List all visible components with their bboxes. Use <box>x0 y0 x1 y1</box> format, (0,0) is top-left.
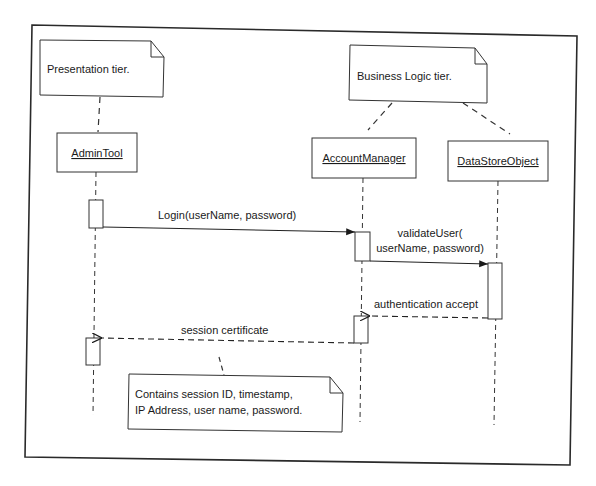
activation-admintool-1 <box>89 200 103 228</box>
note-presentation-tier: Presentation tier. <box>40 40 164 97</box>
message-validateuser-label-2: userName, password) <box>376 242 484 254</box>
message-session-certificate: session certificate <box>101 324 354 343</box>
activation-datastoreobject <box>488 263 502 319</box>
message-validateuser-label-1: validateUser( <box>398 227 463 239</box>
sequence-diagram: Presentation tier. Business Logic tier. … <box>0 0 596 486</box>
note-anchor-certificate <box>219 357 224 375</box>
note-business-logic-tier: Business Logic tier. <box>349 45 487 103</box>
note-presentation-text: Presentation tier. <box>47 63 130 75</box>
activation-admintool-2 <box>86 338 100 365</box>
note-business-text: Business Logic tier. <box>357 70 452 82</box>
message-authentication-label: authentication accept <box>374 298 478 310</box>
lifeline-admintool: AdminTool <box>57 133 137 415</box>
message-login: Login(userName, password) <box>103 209 355 232</box>
activation-accountmanager-2 <box>354 316 368 343</box>
note-anchor-business-datastore <box>463 103 510 134</box>
note-certificate-contents: Contains session ID, timestamp, IP Addre… <box>128 374 343 432</box>
note-certificate-line-2: IP Address, user name, password. <box>135 404 302 416</box>
accountmanager-label: AccountManager <box>322 152 405 164</box>
message-session-certificate-label: session certificate <box>181 324 268 336</box>
note-anchor-business-account <box>368 103 392 130</box>
message-authentication-accept: authentication accept <box>369 298 488 318</box>
message-validateuser: validateUser( userName, password) <box>370 227 488 264</box>
note-certificate-line-1: Contains session ID, timestamp, <box>135 388 293 400</box>
message-login-label: Login(userName, password) <box>158 209 296 221</box>
admintool-label: AdminTool <box>71 147 122 159</box>
note-anchor-presentation <box>98 97 100 132</box>
activation-accountmanager-1 <box>355 232 370 261</box>
datastoreobject-label: DataStoreObject <box>457 155 538 167</box>
lifeline-datastoreobject: DataStoreObject <box>448 141 548 425</box>
